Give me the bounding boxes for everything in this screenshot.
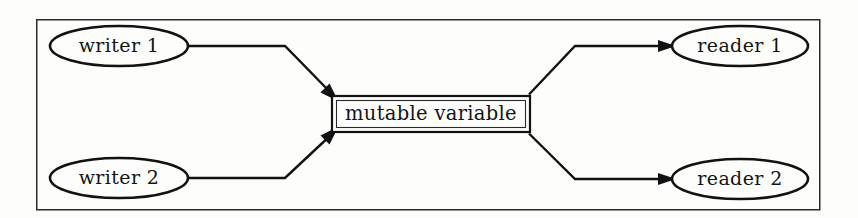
edge-writer-2-to-variable (188, 127, 339, 179)
reader-1-label: reader 1 (697, 34, 782, 56)
diagram-canvas: writer 1 writer 2 reader 1 reader 2 muta… (0, 0, 858, 218)
node-writer-1[interactable]: writer 1 (50, 26, 188, 66)
node-reader-2[interactable]: reader 2 (672, 159, 808, 199)
mutable-variable-label: mutable variable (345, 102, 517, 125)
edge-variable-to-reader-1 (529, 40, 676, 95)
node-reader-1[interactable]: reader 1 (672, 26, 808, 66)
node-writer-2[interactable]: writer 2 (50, 158, 188, 198)
edge-writer-1-to-variable (188, 46, 339, 102)
diagram-figure: writer 1 writer 2 reader 1 reader 2 muta… (0, 0, 858, 218)
writer-2-label: writer 2 (79, 166, 160, 188)
reader-2-label: reader 2 (697, 167, 782, 189)
writer-1-label: writer 1 (79, 34, 160, 56)
node-mutable-variable[interactable]: mutable variable (332, 96, 530, 132)
edge-variable-to-reader-2 (529, 134, 676, 186)
